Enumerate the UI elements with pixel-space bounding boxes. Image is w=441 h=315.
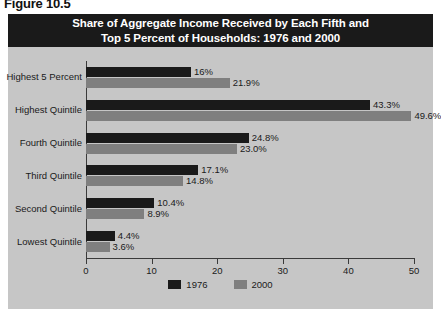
x-tick-label: 20 (212, 265, 223, 276)
bar-1976-lowest-quintile (86, 231, 115, 241)
x-tick-mark (86, 259, 87, 264)
figure-container: Figure 10.5 Share of Aggregate Income Re… (0, 0, 441, 315)
bar-value-label: 23.0% (240, 144, 267, 154)
bar-value-label: 10.4% (157, 198, 184, 208)
x-tick-mark (217, 259, 218, 264)
chart-panel: 01020304050 Highest 5 PercentHighest Qui… (8, 47, 433, 309)
category-label-row: Third Quintile (8, 170, 82, 182)
bar-value-label: 24.8% (252, 133, 279, 143)
bar-value-label: 3.6% (113, 242, 135, 252)
x-tick-label: 0 (83, 265, 88, 276)
category-label: Lowest Quintile (17, 236, 82, 247)
legend-swatch-icon (168, 280, 181, 289)
bar-value-label: 14.8% (186, 176, 213, 186)
category-label: Fourth Quintile (20, 137, 82, 148)
bar-value-label: 4.4% (118, 231, 140, 241)
bar-2000-highest-quintile (86, 111, 411, 121)
legend-label: 2000 (252, 279, 273, 290)
bar-value-label: 43.3% (373, 100, 400, 110)
chart-legend: 19762000 (8, 279, 433, 290)
bar-2000-third-quintile (86, 176, 183, 186)
x-tick-label: 10 (146, 265, 157, 276)
x-tick-mark (348, 259, 349, 264)
bar-1976-fourth-quintile (86, 133, 249, 143)
bar-value-label: 16% (194, 67, 213, 77)
y-axis-line (86, 61, 87, 259)
x-tick-mark (152, 259, 153, 264)
category-label-row: Highest 5 Percent (8, 71, 82, 83)
category-label: Third Quintile (26, 170, 83, 181)
legend-label: 1976 (186, 279, 207, 290)
chart-title-line-2: Top 5 Percent of Households: 1976 and 20… (101, 31, 340, 46)
legend-swatch-icon (234, 280, 247, 289)
category-label-row: Fourth Quintile (8, 137, 82, 149)
bar-2000-highest-5-percent (86, 78, 230, 88)
category-label-row: Highest Quintile (8, 104, 82, 116)
legend-item-1976: 1976 (168, 279, 207, 290)
chart-title-banner: Share of Aggregate Income Received by Ea… (8, 14, 433, 47)
bar-1976-third-quintile (86, 165, 198, 175)
category-label: Highest 5 Percent (6, 71, 82, 82)
x-tick-label: 50 (409, 265, 420, 276)
category-label: Highest Quintile (15, 104, 82, 115)
category-label: Second Quintile (15, 203, 82, 214)
x-tick-mark (283, 259, 284, 264)
chart-title-line-1: Share of Aggregate Income Received by Ea… (72, 16, 369, 31)
bar-2000-second-quintile (86, 209, 144, 219)
x-axis-line (86, 258, 415, 259)
bar-1976-highest-5-percent (86, 67, 191, 77)
bar-value-label: 17.1% (201, 165, 228, 175)
x-tick-mark (414, 259, 415, 264)
figure-number-label: Figure 10.5 (4, 0, 70, 11)
x-tick-label: 30 (278, 265, 289, 276)
bar-value-label: 21.9% (233, 78, 260, 88)
category-label-row: Second Quintile (8, 203, 82, 215)
bar-1976-highest-quintile (86, 100, 370, 110)
bar-2000-fourth-quintile (86, 144, 237, 154)
category-label-row: Lowest Quintile (8, 236, 82, 248)
x-tick-label: 40 (343, 265, 354, 276)
bar-value-label: 49.6% (414, 111, 441, 121)
legend-item-2000: 2000 (234, 279, 273, 290)
bar-value-label: 8.9% (147, 209, 169, 219)
bar-2000-lowest-quintile (86, 242, 110, 252)
bar-1976-second-quintile (86, 198, 154, 208)
